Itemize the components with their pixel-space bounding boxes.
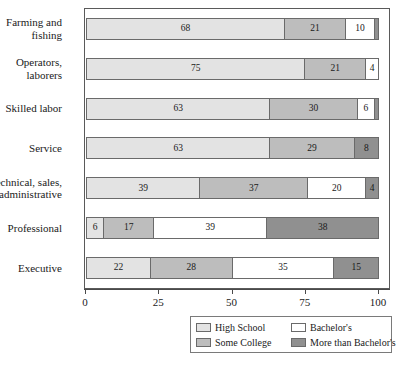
category-label: Executive — [0, 248, 62, 288]
bar-segment-mba[interactable]: 4 — [366, 178, 378, 198]
category-label-line: Executive — [18, 262, 62, 275]
chart-row: Professional6173938 — [85, 208, 389, 248]
bar-segment-hs[interactable]: 75 — [87, 59, 305, 79]
x-axis-tick-label: 75 — [285, 296, 325, 308]
bar-segment-ba[interactable]: 6 — [358, 99, 375, 119]
bar-segment-sc[interactable]: 28 — [151, 258, 232, 278]
bar-segment-ba[interactable]: 39 — [154, 218, 268, 238]
bar-segment-hs[interactable]: 68 — [87, 19, 285, 39]
bar-segment-hs[interactable]: 63 — [87, 99, 270, 119]
bar-segment-hs[interactable]: 6 — [87, 218, 104, 238]
legend-label: Some College — [215, 338, 271, 348]
stacked-bar[interactable]: 22283515 — [86, 257, 379, 279]
bar-segment-mba[interactable]: 8 — [355, 138, 378, 158]
bar-segment-ba[interactable]: 4 — [366, 59, 378, 79]
category-label: Professional — [0, 208, 62, 248]
chart-row: Operators,laborers75214 — [85, 49, 389, 89]
legend-label: More than Bachelor's — [310, 338, 396, 348]
bar-segment-mba[interactable]: 38 — [267, 218, 378, 238]
chart-row: Farming andfishing682110 — [85, 9, 389, 49]
chart-row: Skilled labor63306 — [85, 89, 389, 129]
bar-segment-ba[interactable]: 35 — [233, 258, 335, 278]
category-label: Technical, sales,administrative — [0, 168, 62, 208]
category-label-line: Skilled labor — [5, 102, 62, 115]
stacked-bar[interactable]: 682110 — [86, 18, 379, 40]
chart-row: Technical, sales,administrative3937204 — [85, 168, 389, 208]
category-label-line: laborers — [27, 69, 62, 82]
bar-segment-hs[interactable]: 22 — [87, 258, 151, 278]
stacked-bar[interactable]: 3937204 — [86, 177, 379, 199]
stacked-bar[interactable]: 63306 — [86, 98, 379, 120]
x-axis-tick-label: 100 — [358, 296, 398, 308]
x-axis-tick-label: 50 — [212, 296, 252, 308]
category-label-line: fishing — [31, 29, 62, 42]
bar-segment-mba[interactable]: 15 — [334, 258, 378, 278]
stacked-bar-chart: Farming andfishing682110Operators,labore… — [0, 0, 405, 367]
category-label-line: Operators, — [16, 56, 62, 69]
chart-row: Executive22283515 — [85, 248, 389, 288]
legend-entries: High SchoolBachelor'sSome CollegeMore th… — [196, 320, 388, 350]
bar-segment-sc[interactable]: 17 — [104, 218, 153, 238]
category-label: Service — [0, 129, 62, 169]
legend-swatch-hs — [196, 323, 211, 332]
stacked-bar[interactable]: 63298 — [86, 137, 379, 159]
bar-segment-sc[interactable]: 37 — [200, 178, 308, 198]
legend-swatch-sc — [196, 338, 211, 347]
stacked-bar[interactable]: 75214 — [86, 58, 379, 80]
category-label-line: Technical, sales, — [0, 176, 62, 189]
x-axis-tick-label: 25 — [138, 296, 178, 308]
legend-label: High School — [215, 323, 265, 333]
bar-segment-sc[interactable]: 29 — [270, 138, 354, 158]
category-label: Farming andfishing — [0, 9, 62, 49]
bar-segment-mba[interactable] — [375, 19, 378, 39]
bar-segment-ba[interactable]: 20 — [308, 178, 366, 198]
x-axis: 0255075100 — [84, 289, 390, 290]
legend-entry[interactable]: Bachelor's — [291, 323, 388, 333]
category-label-line: administrative — [0, 188, 62, 201]
legend-swatch-mba — [291, 338, 306, 347]
bar-segment-hs[interactable]: 39 — [87, 178, 200, 198]
category-label: Operators,laborers — [0, 49, 62, 89]
bar-segment-sc[interactable]: 21 — [305, 59, 366, 79]
bar-rows-container: Farming andfishing682110Operators,labore… — [85, 9, 389, 288]
category-label: Skilled labor — [0, 89, 62, 129]
category-label-line: Professional — [8, 222, 62, 235]
x-axis-line — [84, 289, 390, 290]
bar-segment-ba[interactable]: 10 — [346, 19, 375, 39]
bar-segment-sc[interactable]: 21 — [285, 19, 346, 39]
category-label-line: Service — [29, 142, 62, 155]
chart-row: Service63298 — [85, 129, 389, 169]
bar-segment-mba[interactable] — [375, 99, 378, 119]
legend-swatch-ba — [291, 323, 306, 332]
legend-entry[interactable]: High School — [196, 323, 291, 333]
legend-label: Bachelor's — [310, 323, 352, 333]
legend-entry[interactable]: More than Bachelor's — [291, 338, 388, 348]
chart-legend: High SchoolBachelor'sSome CollegeMore th… — [190, 316, 392, 353]
x-axis-tick-label: 0 — [65, 296, 105, 308]
legend-entry[interactable]: Some College — [196, 338, 291, 348]
stacked-bar[interactable]: 6173938 — [86, 217, 379, 239]
category-label-line: Farming and — [6, 16, 62, 29]
bar-segment-hs[interactable]: 63 — [87, 138, 270, 158]
bar-segment-sc[interactable]: 30 — [270, 99, 357, 119]
